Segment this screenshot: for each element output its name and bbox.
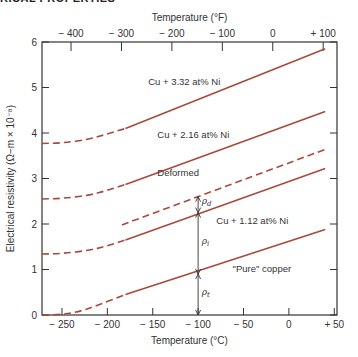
series-label: Cu + 2.16 at% Ni [157,129,229,140]
resistivity-chart: 0123456− 250− 200− 150− 100− 500+ 50− 40… [0,0,358,357]
series-lines [42,49,325,315]
series-label: "Pure" copper [233,263,292,274]
x2-tick-label: − 200 [159,28,185,39]
rho-label: ρi [201,236,210,248]
series-cu-2-16-at-ni-solid [126,112,326,185]
annotations: Cu + 3.32 at% NiCu + 2.16 at% NiDeformed… [148,76,291,315]
series-cu-3-32-at-ni-dashed [42,129,126,144]
series-pure-copper-dashed [42,295,126,316]
series-label: Deformed [157,167,199,178]
y-tick-label: 0 [31,310,37,321]
x2-axis-title: Temperature (°F) [152,12,228,23]
series-cu-1-12-at-ni-solid [126,169,326,240]
series-cu-3-32-at-ni-solid [126,49,326,129]
rho-label: ρt [201,287,210,299]
x2-tick-label: − 400 [58,28,84,39]
x2-tick-label: + 100 [311,28,337,39]
x-tick-label: − 50 [234,319,254,330]
series-cu-2-16-at-ni-dashed [42,184,126,199]
x2-tick-label: 0 [270,28,276,39]
rho-label: ρd [201,196,212,208]
x-tick-label: − 150 [140,319,166,330]
x-tick-label: + 50 [324,319,344,330]
series-cu-1-12-at-ni-dashed [42,240,126,254]
x-axis-title: Temperature (°C) [151,335,228,346]
y-tick-label: 4 [31,128,37,139]
y-tick-label: 5 [31,82,37,93]
y-tick-label: 2 [31,219,37,230]
y-tick-label: 1 [31,264,37,275]
y-axis-title: Electrical resistivity (Ω−m × 10⁻⁸) [5,105,16,252]
series-pure-copper-solid [126,230,326,295]
series-deformed-dashed [122,149,325,225]
x-tick-label: 0 [286,319,292,330]
x-tick-label: − 250 [49,319,75,330]
x-tick-label: − 200 [95,319,121,330]
series-label: Cu + 3.32 at% Ni [148,76,220,87]
x2-tick-label: − 100 [210,28,236,39]
x2-tick-label: − 300 [109,28,135,39]
y-tick-label: 6 [31,37,37,48]
y-tick-label: 3 [31,173,37,184]
x-tick-label: − 100 [185,319,211,330]
series-label: Cu + 1.12 at% Ni [216,215,288,226]
